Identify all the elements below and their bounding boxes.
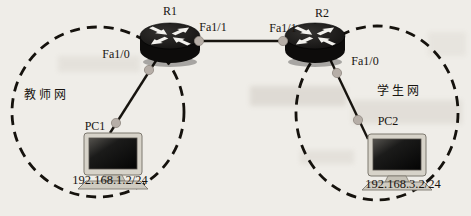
zone-label-student-network: 学生网 [377,83,422,98]
port-dot-r2-fa1-1 [278,36,287,45]
router-r1-label: R1 [163,4,177,18]
router-r1-icon [140,23,200,67]
pc2-screen [373,139,421,170]
pc1-label: PC1 [85,119,106,133]
pc2-label: PC2 [378,114,399,128]
interface-label-r2-fa1-0: Fa1/0 [351,54,378,68]
port-dot-pc2 [353,115,362,124]
zone-label-teacher-network: 教师网 [24,87,69,102]
port-dot-r1-fa1-0 [144,65,153,74]
port-dot-pc1 [111,118,120,127]
network-topology-figure: R1 R2 Fa1/1 Fa1/1 Fa1/0 Fa1/0 教师网 学生网 PC… [0,0,471,216]
pc2-ip-label: 192.168.3.2/24 [365,177,441,191]
interface-label-r2-fa1-1: Fa1/1 [269,21,296,35]
router-r2-label: R2 [315,6,329,20]
pc1-screen [89,138,137,169]
port-dot-r2-fa1-0 [332,68,341,77]
pc1-ip-label: 192.168.1.2/24 [72,173,148,187]
port-dot-r1-fa1-1 [194,36,203,45]
interface-label-r1-fa1-0: Fa1/0 [102,47,129,61]
router-r1-top [140,23,200,49]
interface-label-r1-fa1-1: Fa1/1 [199,20,226,34]
